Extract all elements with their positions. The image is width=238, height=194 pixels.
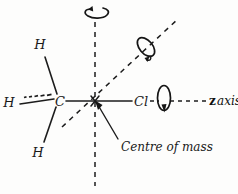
rotation-z-axis-arrow	[158, 86, 171, 113]
atom-label-h-upper-left: H	[33, 37, 46, 52]
bond-c-h-left-line	[20, 99, 54, 104]
bond-c-h-upper-left-line	[45, 57, 57, 94]
diagonal-axis-line	[62, 18, 179, 127]
centre-of-mass-label: Centre of mass	[121, 140, 213, 154]
atom-label-carbon: C	[55, 94, 65, 109]
bond-c-h-lower-left	[44, 107, 56, 142]
bond-c-h-lower-left-line	[44, 107, 56, 142]
bond-c-h-left	[20, 94, 54, 104]
atom-label-h-left: H	[2, 95, 15, 110]
z-axis-label: z axis	[209, 94, 238, 108]
centre-of-mass-callout: Centre of mass	[95, 101, 213, 155]
centre-of-mass-arrowhead	[95, 101, 103, 111]
atom-label-chlorine: Cl	[134, 94, 148, 109]
rotation-diagonal-arrowhead	[145, 57, 150, 63]
bond-c-h-upper-left	[45, 57, 57, 94]
rotation-diagonal-axis-arrow	[134, 34, 158, 62]
rotation-vertical-axis-arrow	[85, 6, 108, 18]
z-axis-label-word: axis	[217, 94, 238, 108]
chemistry-diagram-figure: H H H C Cl z axis	[0, 0, 238, 194]
diagram-canvas: H H H C Cl z axis	[0, 0, 238, 194]
diagonal-axis	[62, 18, 179, 127]
z-axis-label-symbol: z	[209, 94, 216, 108]
atom-label-h-lower-left: H	[31, 145, 44, 160]
centre-of-mass-leader-line	[98, 105, 118, 139]
bond-c-h-left-hash-marks	[24, 94, 52, 97]
